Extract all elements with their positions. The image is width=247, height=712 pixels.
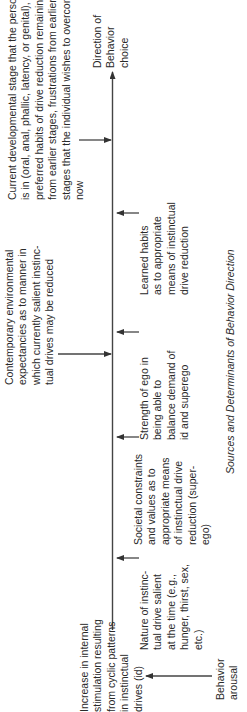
text-line: at the time (e.g., bbox=[165, 564, 178, 650]
node-learned-habits: Learned habits as to appropriate means o… bbox=[138, 202, 192, 295]
text-line: Strength of ego in bbox=[138, 351, 151, 440]
text-line: appropriate means bbox=[159, 454, 172, 545]
text-line: Learned habits bbox=[138, 202, 151, 295]
text-line: tual drives may be reduced bbox=[43, 246, 56, 385]
text-line: stages that the individual wishes to ove… bbox=[60, 0, 73, 200]
text-line: reduction (super- bbox=[186, 454, 199, 545]
caption-text: Sources and Determinants of Behavior Dir… bbox=[224, 249, 237, 474]
diagram-canvas: Current developmental stage that the per… bbox=[0, 0, 247, 712]
text-line: etc.) bbox=[192, 564, 205, 650]
text-line: Direction of bbox=[91, 15, 104, 68]
node-increase-stimulation: Increase in internal stimulation resulti… bbox=[78, 619, 145, 712]
text-line: tual drive salient bbox=[151, 564, 164, 650]
text-line: drive reduction bbox=[178, 202, 191, 295]
text-line: as to appropriate bbox=[151, 202, 164, 295]
text-line: Behavior bbox=[104, 15, 117, 68]
text-line: which currently salient instinc- bbox=[30, 246, 43, 385]
text-line: Current developmental stage that the per… bbox=[6, 0, 19, 200]
text-line: expectancies as to manner in bbox=[16, 246, 29, 385]
text-line: arousal bbox=[227, 659, 240, 700]
text-line: choice bbox=[118, 15, 131, 68]
text-line: in instinctual bbox=[118, 619, 131, 712]
text-line: now bbox=[73, 0, 86, 200]
text-line: Contemporary environmental bbox=[3, 246, 16, 385]
node-nature-of-drive: Nature of instinc- tual drive salient at… bbox=[138, 564, 205, 650]
figure-caption: Sources and Determinants of Behavior Dir… bbox=[224, 249, 237, 474]
text-line: means of instinctual bbox=[165, 202, 178, 295]
text-line: being able to bbox=[151, 351, 164, 440]
node-current-developmental: Current developmental stage that the per… bbox=[6, 0, 86, 200]
text-line: from earlier stages, frustrations from e… bbox=[46, 0, 59, 200]
text-line: from cyclic patterns bbox=[105, 619, 118, 712]
text-line: Behavior bbox=[214, 659, 227, 700]
text-line: Increase in internal bbox=[78, 619, 91, 712]
node-direction-of-behavior: Direction of Behavior choice bbox=[91, 15, 131, 68]
text-line: balance demand of bbox=[165, 351, 178, 440]
node-strength-of-ego: Strength of ego in being able to balance… bbox=[138, 351, 192, 440]
text-line: stimulation resulting bbox=[91, 619, 104, 712]
node-behavior-arousal: Behavior arousal bbox=[214, 659, 241, 700]
text-line: of instinctual drive bbox=[172, 454, 185, 545]
text-line: is in (oral, anal, phallic, latency, or … bbox=[19, 0, 32, 200]
node-societal-constraints: Societal constraints and values as to ap… bbox=[132, 454, 212, 545]
node-contemporary-environmental: Contemporary environmental expectancies … bbox=[3, 246, 57, 385]
text-line: ego) bbox=[199, 454, 212, 545]
text-line: Societal constraints bbox=[132, 454, 145, 545]
text-line: drives (id) bbox=[132, 619, 145, 712]
text-line: preferred habits of drive reduction rema… bbox=[33, 0, 46, 200]
text-line: hunger, thirst, sex, bbox=[178, 564, 191, 650]
text-line: id and superego bbox=[178, 351, 191, 440]
text-line: and values as to bbox=[145, 454, 158, 545]
